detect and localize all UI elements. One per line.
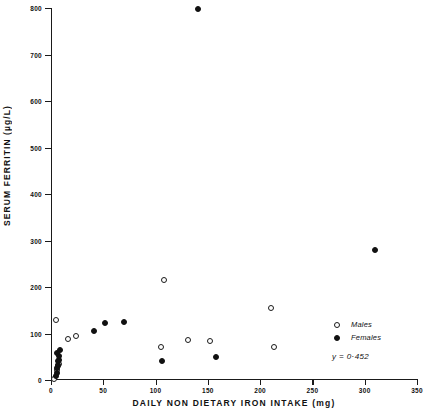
filled-circle-marker-icon bbox=[334, 335, 340, 341]
y-axis-tick-label: 800 bbox=[30, 5, 42, 12]
y-axis-title: SERUM FERRITIN (µg/L) bbox=[2, 105, 20, 226]
open-circle-marker-icon bbox=[334, 322, 340, 328]
data-point-males bbox=[73, 333, 79, 339]
data-point-males bbox=[268, 305, 274, 311]
data-point-females bbox=[213, 354, 219, 360]
data-point-females bbox=[159, 358, 165, 364]
y-axis-tick-label: 0 bbox=[38, 377, 42, 384]
data-point-males bbox=[161, 277, 167, 283]
data-point-females bbox=[57, 347, 63, 353]
data-point-females bbox=[54, 370, 60, 376]
data-point-females bbox=[372, 247, 378, 253]
legend-item-label: Males bbox=[351, 320, 372, 329]
data-point-females bbox=[121, 319, 127, 325]
x-axis-tick-label: 100 bbox=[150, 387, 162, 394]
regression-annotation: y = 0·452 bbox=[332, 352, 369, 361]
y-axis-tick-label: 600 bbox=[30, 98, 42, 105]
legend: Males Females bbox=[334, 318, 381, 344]
data-point-females bbox=[195, 6, 201, 12]
y-axis-tick-label: 300 bbox=[30, 237, 42, 244]
x-axis-tick-label: 0 bbox=[49, 387, 53, 394]
legend-item-females: Females bbox=[334, 331, 381, 344]
data-point-females bbox=[91, 328, 97, 334]
x-axis-tick-label: 250 bbox=[307, 387, 319, 394]
data-point-males bbox=[53, 317, 59, 323]
x-axis-tick: 350 bbox=[417, 379, 418, 385]
x-axis-tick-label: 350 bbox=[411, 387, 423, 394]
x-axis-title: DAILY NON DIETARY IRON INTAKE (mg) bbox=[51, 398, 417, 408]
x-axis-tick-label: 200 bbox=[254, 387, 266, 394]
legend-item-label: Females bbox=[351, 333, 381, 342]
x-axis-tick-label: 50 bbox=[99, 387, 107, 394]
data-point-males bbox=[185, 337, 191, 343]
data-point-males bbox=[65, 336, 71, 342]
y-axis-tick-label: 200 bbox=[30, 284, 42, 291]
data-point-males bbox=[158, 344, 164, 350]
y-axis-tick-label: 400 bbox=[30, 191, 42, 198]
scatter-plot-figure: 0100200300400500600700800 05010015020025… bbox=[0, 0, 433, 419]
data-point-males bbox=[271, 344, 277, 350]
y-axis-tick-label: 500 bbox=[30, 144, 42, 151]
data-point-males bbox=[207, 338, 213, 344]
data-point-females bbox=[102, 320, 108, 326]
x-axis-tick-label: 150 bbox=[202, 387, 214, 394]
legend-item-males: Males bbox=[334, 318, 381, 331]
y-axis-tick-label: 100 bbox=[30, 330, 42, 337]
x-axis-tick-label: 300 bbox=[359, 387, 371, 394]
y-axis-tick-label: 700 bbox=[30, 51, 42, 58]
